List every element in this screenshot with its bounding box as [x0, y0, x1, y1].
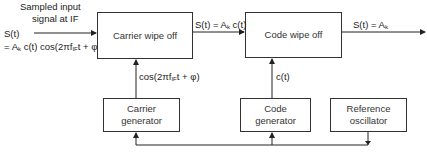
reference-oscillator-block: Referenceoscillator: [330, 98, 407, 132]
code-wipe-off-block: Code wipe off: [245, 12, 342, 58]
edge-label-code-ref: c(t): [276, 71, 290, 82]
carrier-wipe-off-block: Carrier wipe off: [97, 12, 193, 59]
input-caption-line1: Sampled input: [20, 1, 81, 12]
edge-label-wipeoffs: S(t) = Ak c(t): [195, 19, 246, 33]
input-signal-line2: = Ak c(t) cos(2πfIFt + φ): [4, 41, 101, 55]
code-generator-block: Codegenerator: [240, 98, 311, 132]
edge-label-carrier-ref: cos(2πfIFt + φ): [139, 71, 200, 85]
input-signal-line1: S(t): [4, 28, 19, 39]
edge-label-output: S(t) = Ak: [353, 19, 388, 33]
input-caption-line2: signal at IF: [32, 13, 78, 24]
carrier-generator-block: Carriergenerator: [103, 98, 180, 132]
